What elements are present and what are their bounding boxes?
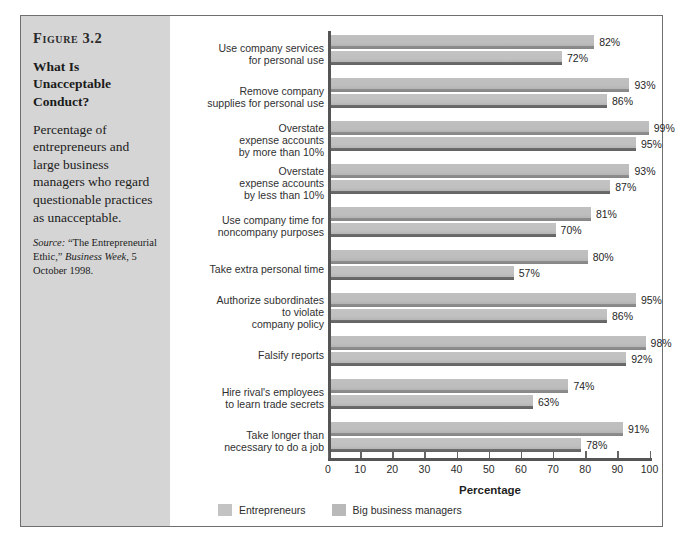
category-label: Authorize subordinatesto violatecompany … (174, 293, 324, 330)
x-axis-tick (457, 451, 458, 458)
x-axis: 0102030405060708090100 (328, 458, 652, 459)
legend-swatch-entrepreneurs (218, 504, 232, 516)
figure-number: Figure 3.2 (33, 30, 158, 47)
bar-value-label: 87% (615, 181, 636, 193)
bar-value-label: 70% (561, 224, 582, 236)
x-axis-title: Percentage (328, 484, 652, 496)
bar-pair: 82%72% (331, 35, 595, 65)
x-axis-tick (328, 451, 329, 458)
bar-group: Falsify reports98%92% (170, 333, 664, 376)
category-label-line: Falsify reports (174, 348, 324, 360)
x-axis-tick (424, 451, 425, 458)
chart-area: Use company servicesfor personal use82%7… (170, 16, 662, 526)
category-label: Use company servicesfor personal use (174, 41, 324, 65)
bar-value-label: 63% (538, 396, 559, 408)
category-label-line: Remove company (174, 84, 324, 96)
bar-pair: 80%57% (331, 250, 588, 280)
category-label-line: supplies for personal use (174, 97, 324, 109)
bar-value-label: 72% (567, 52, 588, 64)
bar-pair: 95%86% (331, 293, 636, 323)
category-label-line: necessary to do a job (174, 441, 324, 453)
bar-entrepreneurs: 82% (331, 35, 595, 49)
x-axis-tick-label: 20 (386, 463, 398, 475)
figure-caption-panel: Figure 3.2 What Is Unacceptable Conduct?… (21, 16, 170, 526)
bar-entrepreneurs: 81% (331, 207, 591, 221)
bar-entrepreneurs: 98% (331, 336, 646, 350)
bar-entrepreneurs: 93% (331, 164, 630, 178)
x-axis-tick (585, 451, 586, 458)
bar-value-label: 74% (573, 380, 594, 392)
chart-legend: Entrepreneurs Big business managers (218, 504, 462, 516)
bar-entrepreneurs: 80% (331, 250, 588, 264)
bar-pair: 74%63% (331, 379, 569, 409)
bar-value-label: 95% (641, 138, 662, 150)
bar-group: Take longer thannecessary to do a job91%… (170, 419, 664, 462)
bar-group: Use company time fornoncompany purposes8… (170, 204, 664, 247)
category-label-line: to learn trade secrets (174, 398, 324, 410)
bar-value-label: 82% (599, 36, 620, 48)
category-label: Take longer thannecessary to do a job (174, 428, 324, 452)
bar-pair: 98%92% (331, 336, 646, 366)
bar-group: Overstateexpense accountsby less than 10… (170, 161, 664, 204)
bar-value-label: 86% (612, 310, 633, 322)
category-label-line: Hire rival's employees (174, 385, 324, 397)
bar-big-business-managers: 72% (331, 51, 562, 65)
bar-entrepreneurs: 91% (331, 422, 624, 436)
bar-value-label: 99% (654, 122, 675, 134)
category-label: Remove companysupplies for personal use (174, 84, 324, 108)
category-label-line: by more than 10% (174, 146, 324, 158)
category-label: Use company time fornoncompany purposes (174, 213, 324, 237)
legend-label-entrepreneurs: Entrepreneurs (239, 504, 306, 516)
legend-swatch-big-business-managers (332, 504, 346, 516)
category-label-line: by less than 10% (174, 189, 324, 201)
bar-group: Remove companysupplies for personal use9… (170, 75, 664, 118)
x-axis-tick-label: 80 (579, 463, 591, 475)
bar-pair: 81%70% (331, 207, 591, 237)
category-label: Overstateexpense accountsby less than 10… (174, 164, 324, 201)
bar-group: Take extra personal time80%57% (170, 247, 664, 290)
x-axis-tick (553, 451, 554, 458)
plot-area: Use company servicesfor personal use82%7… (170, 28, 664, 458)
category-label-line: Overstate (174, 164, 324, 176)
category-label-line: Use company time for (174, 213, 324, 225)
x-axis-tick (521, 451, 522, 458)
bar-big-business-managers: 86% (331, 94, 607, 108)
bar-entrepreneurs: 74% (331, 379, 569, 393)
bar-value-label: 95% (641, 294, 662, 306)
x-axis-tick-label: 90 (612, 463, 624, 475)
bar-value-label: 78% (586, 439, 607, 451)
x-axis-tick (392, 451, 393, 458)
bar-group: Authorize subordinatesto violatecompany … (170, 290, 664, 333)
bar-entrepreneurs: 99% (331, 121, 649, 135)
category-label-line: Overstate (174, 121, 324, 133)
x-axis-tick-label: 40 (451, 463, 463, 475)
category-label-line: company policy (174, 318, 324, 330)
category-label-line: for personal use (174, 54, 324, 66)
bar-pair: 91%78% (331, 422, 624, 452)
bar-pair: 93%87% (331, 164, 630, 194)
category-label-line: to violate (174, 305, 324, 317)
category-label: Overstateexpense accountsby more than 10… (174, 121, 324, 158)
x-axis-tick-label: 60 (515, 463, 527, 475)
figure-source-label: Source: (33, 237, 65, 248)
bar-big-business-managers: 92% (331, 352, 627, 366)
legend-label-big-business-managers: Big business managers (353, 504, 462, 516)
x-axis-tick (617, 451, 618, 458)
bar-big-business-managers: 95% (331, 137, 636, 151)
category-label-line: Take extra personal time (174, 262, 324, 274)
bar-entrepreneurs: 93% (331, 78, 630, 92)
category-label: Take extra personal time (174, 262, 324, 274)
category-label-line: Take longer than (174, 428, 324, 440)
legend-item-entrepreneurs: Entrepreneurs (218, 504, 306, 516)
figure-frame: Figure 3.2 What Is Unacceptable Conduct?… (20, 15, 663, 527)
bar-group: Hire rival's employeesto learn trade sec… (170, 376, 664, 419)
bar-value-label: 93% (634, 165, 655, 177)
category-label-line: Use company services (174, 41, 324, 53)
x-axis-tick-label: 30 (419, 463, 431, 475)
bar-pair: 99%95% (331, 121, 649, 151)
figure-description: Percentage of entrepreneurs and large bu… (33, 121, 158, 226)
bar-big-business-managers: 86% (331, 309, 607, 323)
bar-value-label: 91% (628, 423, 649, 435)
x-axis-tick-label: 70 (547, 463, 559, 475)
category-label-line: expense accounts (174, 176, 324, 188)
